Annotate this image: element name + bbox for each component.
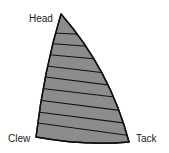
sail-body: [36, 14, 129, 143]
sail-graphic: [0, 0, 169, 153]
clew-label: Clew: [8, 134, 30, 144]
head-label: Head: [29, 14, 53, 24]
seam-line: [30, 32, 140, 37]
sail-diagram: Head Clew Tack: [0, 0, 169, 153]
tack-label: Tack: [136, 134, 157, 144]
